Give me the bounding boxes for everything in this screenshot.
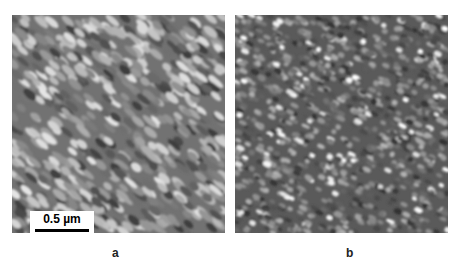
scale-bar-line xyxy=(35,229,89,232)
micrograph-b xyxy=(235,15,448,233)
micrograph-a: 0.5 µm xyxy=(12,15,225,233)
panel-label-a: a xyxy=(112,246,119,260)
panel-label-b: b xyxy=(346,246,353,260)
scale-bar: 0.5 µm xyxy=(30,211,94,233)
scale-bar-label: 0.5 µm xyxy=(30,212,94,226)
